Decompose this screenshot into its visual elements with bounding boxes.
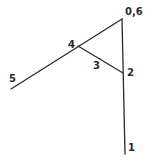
- label-node-2: 2: [127, 68, 134, 78]
- edge-5-to-top: [11, 19, 122, 89]
- label-node-4: 4: [68, 40, 75, 50]
- diagram-lines: [0, 0, 147, 163]
- label-node-3: 3: [93, 61, 100, 71]
- label-top: 0,6: [125, 7, 143, 17]
- line-diagram: 0,6 4 3 2 5 1: [0, 0, 147, 163]
- edge-top-to-1: [122, 19, 125, 154]
- label-node-1: 1: [128, 143, 135, 153]
- label-node-5: 5: [9, 74, 16, 84]
